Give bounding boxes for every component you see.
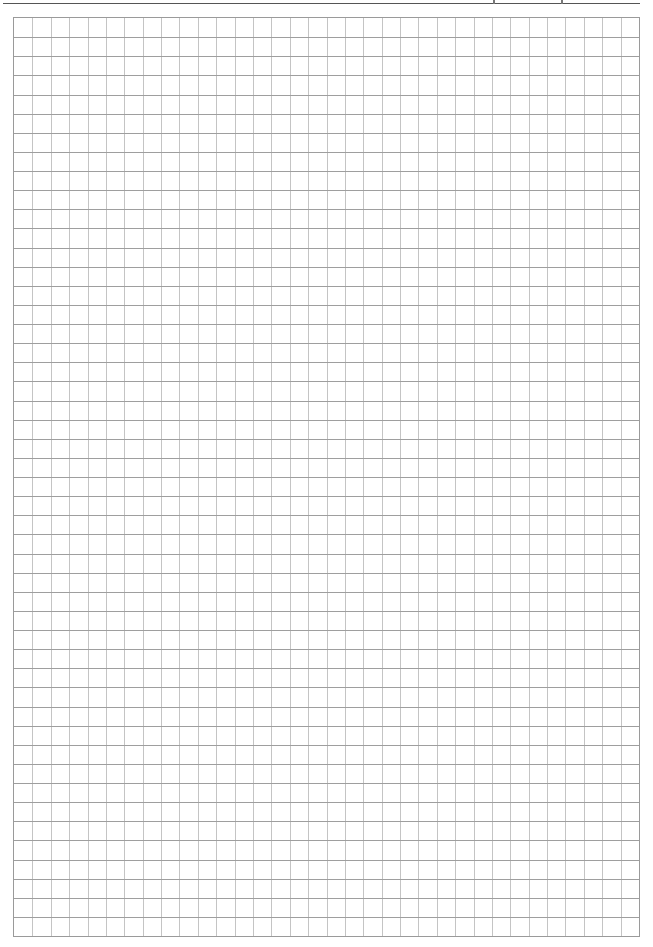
header-cutoff-glyph [561, 0, 563, 4]
grid-lines [14, 18, 639, 936]
header-cutoff-glyph [493, 0, 495, 4]
page-header-rule [3, 3, 640, 4]
graph-paper-grid [13, 17, 640, 937]
